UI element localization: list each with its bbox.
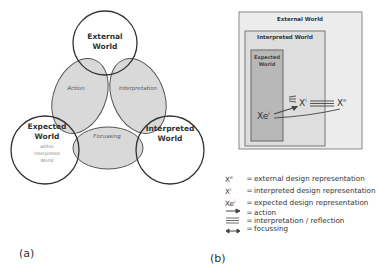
external-world-label-2: World [93,42,118,51]
expected-world-label-1: Expected [28,122,67,131]
legend-row-focussing: = focussing [225,225,375,233]
panel-b-label: (b) [210,252,226,265]
legend-equals: = [245,174,254,184]
legend-text: external design representation [254,174,365,184]
legend-text: interpreted design representation [254,186,375,196]
expected-world-sub-1: within [40,144,54,149]
external-world-box-label: External World [277,16,323,22]
xei-symbol: Xei [257,110,270,121]
legend-equals: = [245,198,254,208]
legend: Xe = external design representation Xi =… [225,173,375,233]
diagram-canvas: External World Expected World within Int… [0,0,379,276]
legend-row-interpreted: Xi = interpreted design representation [225,185,375,197]
interpreted-world-label-2: World [158,134,183,143]
legend-row-external: Xe = external design representation [225,173,375,185]
legend-equals: = [245,225,254,233]
interpretation-label: Interpretation [119,85,158,92]
legend-text: expected design representation [254,198,368,208]
expected-world-box-label-1: Expected [254,54,280,61]
interpreted-world-box-label: Interpreted World [257,34,313,41]
legend-symbol: Xei [225,197,245,209]
legend-symbol: Xi [225,185,245,197]
expected-world-label-2: World [35,132,60,141]
focussing-label: Focussing [93,133,121,140]
legend-text: focussing [254,225,288,233]
legend-equals: = [245,186,254,196]
expected-world-sub-3: World [41,158,54,163]
expected-world-box-label-2: World [259,61,276,67]
legend-symbol: Xe [225,173,245,185]
action-label: Action [66,85,85,91]
expected-world-sub-2: Interpreted [34,151,59,156]
panel-a-label: (a) [19,247,34,260]
external-world-label-1: External [87,32,122,41]
interpreted-world-label-1: Interpreted [146,124,195,133]
